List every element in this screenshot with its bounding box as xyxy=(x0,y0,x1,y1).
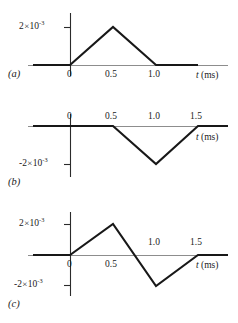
panel-c-y-pos-base: 10 xyxy=(30,218,40,228)
panel-c-y-tick-label-negative: -2×10-3 xyxy=(14,280,43,290)
panel-b-x-var: t xyxy=(196,132,199,142)
panel-b-xtick-0p5: 0.5 xyxy=(105,112,117,122)
panel-c-y-pos-exponent: -3 xyxy=(39,216,44,223)
panel-c: 2×10-3 -2×10-3 0 0.5 1.0 1.5 t (ms) (c) xyxy=(0,200,238,323)
panel-c-xtick-0p5: 0.5 xyxy=(105,260,117,270)
panel-a-plot xyxy=(0,0,238,95)
panel-c-x-unit: (ms) xyxy=(201,260,218,270)
panel-c-xtick-1p5: 1.5 xyxy=(190,238,202,248)
panel-b-x-axis-label: t (ms) xyxy=(196,132,218,142)
panel-b-y-base: 10 xyxy=(33,158,43,168)
panel-b: -2×10-3 0 0.5 1.0 1.5 t (ms) (b) xyxy=(0,100,238,195)
panel-b-plot xyxy=(0,100,238,195)
panel-c-y-tick-label-positive: 2×10-3 xyxy=(19,219,44,229)
panel-a-xtick-0p5: 0.5 xyxy=(105,70,117,80)
panel-c-y-neg-exponent: -3 xyxy=(37,277,42,284)
panel-c-xtick-1p0: 1.0 xyxy=(148,238,160,248)
panel-a: 2×10-3 0 0.5 1.0 t (ms) (a) xyxy=(0,0,238,95)
panel-a-y-tick-label: 2×10-3 xyxy=(19,22,44,32)
panel-c-x-axis-label: t (ms) xyxy=(196,260,218,270)
panel-c-tag: (c) xyxy=(8,298,20,309)
panel-b-tag: (b) xyxy=(8,176,20,187)
panel-a-x-unit: (ms) xyxy=(201,70,218,80)
panel-a-x-axis-label: t (ms) xyxy=(196,70,218,80)
panel-a-y-base: 10 xyxy=(30,21,40,31)
panel-b-xtick-1p5: 1.5 xyxy=(190,112,202,122)
panel-a-tag: (a) xyxy=(8,68,20,79)
panel-b-xtick-0: 0 xyxy=(67,112,72,122)
panel-b-x-unit: (ms) xyxy=(201,132,218,142)
panel-b-y-tick-label: -2×10-3 xyxy=(19,159,48,169)
panel-b-y-exponent: -3 xyxy=(42,156,47,163)
panel-a-xtick-0: 0 xyxy=(67,70,72,80)
panel-b-xtick-1p0: 1.0 xyxy=(148,112,160,122)
panel-c-x-var: t xyxy=(196,260,199,270)
figure-container: 2×10-3 0 0.5 1.0 t (ms) (a) -2×10-3 0 0.… xyxy=(0,0,238,323)
panel-a-x-var: t xyxy=(196,70,199,80)
panel-a-y-exponent: -3 xyxy=(39,19,44,26)
panel-c-xtick-0: 0 xyxy=(67,260,72,270)
panel-a-xtick-1p0: 1.0 xyxy=(148,70,160,80)
panel-c-y-neg-base: 10 xyxy=(28,279,38,289)
panel-a-waveform xyxy=(33,27,198,65)
